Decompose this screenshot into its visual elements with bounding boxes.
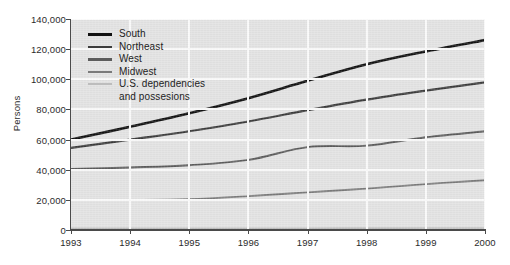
legend-item: U.S. dependencies xyxy=(88,78,278,91)
y-tick-label: 0 xyxy=(0,225,66,236)
series-line xyxy=(71,131,485,169)
y-tick-mark xyxy=(66,49,71,50)
x-tick-label: 1997 xyxy=(278,237,338,248)
legend-item: West xyxy=(88,53,278,66)
legend-color-swatch xyxy=(88,46,112,49)
y-tick-mark xyxy=(66,200,71,201)
vertical-gridline xyxy=(366,19,368,230)
x-tick-label: 1993 xyxy=(41,237,101,248)
y-tick-label: 140,000 xyxy=(0,14,66,25)
y-tick-mark xyxy=(66,140,71,141)
x-tick-label: 1995 xyxy=(159,237,219,248)
legend-label: West xyxy=(119,53,142,66)
y-axis-tick-labels: 140,000120,000100,00080,00060,00040,0002… xyxy=(0,0,66,265)
y-tick-label: 100,000 xyxy=(0,74,66,85)
x-axis-tick-labels: 19931994199519961997199819992000 xyxy=(0,237,510,257)
x-tick-mark xyxy=(71,230,72,234)
legend-color-swatch xyxy=(88,71,112,73)
x-axis-line xyxy=(70,229,486,231)
x-tick-mark xyxy=(367,230,368,234)
horizontal-gridline xyxy=(71,19,485,20)
x-tick-label: 1998 xyxy=(337,237,397,248)
y-tick-mark xyxy=(66,170,71,171)
legend-item: Northeast xyxy=(88,41,278,54)
x-tick-mark xyxy=(248,230,249,234)
legend-label-continuation: and possesions xyxy=(88,91,278,104)
legend-item: South xyxy=(88,28,278,41)
vertical-gridline xyxy=(484,19,485,230)
y-tick-label: 40,000 xyxy=(0,164,66,175)
x-tick-mark xyxy=(189,230,190,234)
line-chart: Persons 140,000120,000100,00080,00060,00… xyxy=(0,0,510,265)
legend-label: Northeast xyxy=(119,41,163,54)
horizontal-gridline xyxy=(71,169,485,171)
y-tick-mark xyxy=(66,79,71,80)
x-tick-label: 1999 xyxy=(396,237,456,248)
horizontal-gridline xyxy=(71,108,485,110)
y-tick-label: 120,000 xyxy=(0,44,66,55)
horizontal-gridline xyxy=(71,139,485,141)
y-tick-mark xyxy=(66,19,71,20)
legend-label: South xyxy=(119,28,146,41)
x-tick-label: 1996 xyxy=(218,237,278,248)
y-tick-label: 20,000 xyxy=(0,194,66,205)
x-tick-mark xyxy=(308,230,309,234)
legend-label: U.S. dependencies xyxy=(119,78,205,91)
series-line xyxy=(71,180,485,200)
x-tick-mark xyxy=(130,230,131,234)
legend-item: Midwest xyxy=(88,66,278,79)
y-tick-mark xyxy=(66,109,71,110)
x-tick-label: 1994 xyxy=(100,237,160,248)
vertical-gridline xyxy=(425,19,427,230)
legend-color-swatch xyxy=(88,33,112,36)
chart-legend: SouthNortheastWestMidwestU.S. dependenci… xyxy=(88,28,278,104)
legend-color-swatch xyxy=(88,58,112,60)
x-tick-label: 2000 xyxy=(455,237,510,248)
vertical-gridline xyxy=(307,19,309,230)
x-tick-mark xyxy=(426,230,427,234)
legend-color-swatch xyxy=(88,83,112,85)
x-tick-mark xyxy=(485,230,486,234)
horizontal-gridline xyxy=(71,199,485,201)
y-axis-line xyxy=(70,19,71,230)
y-tick-label: 60,000 xyxy=(0,134,66,145)
legend-label: Midwest xyxy=(119,66,156,79)
y-tick-label: 80,000 xyxy=(0,104,66,115)
